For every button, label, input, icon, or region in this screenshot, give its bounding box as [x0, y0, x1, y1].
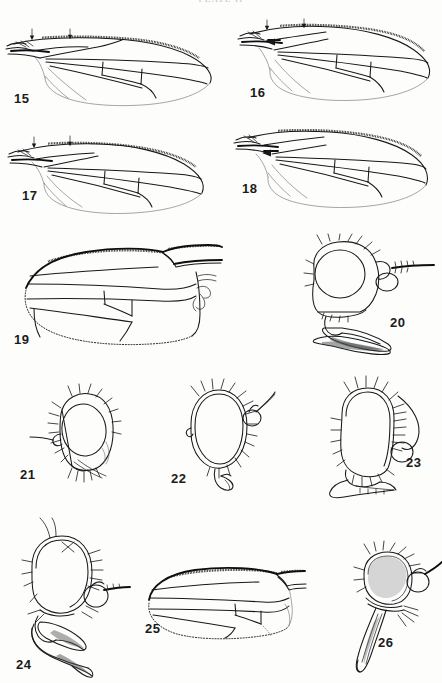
figure-22: 22 — [163, 376, 275, 500]
figure-18-label: 18 — [242, 182, 257, 195]
figure-25: 25 — [137, 560, 309, 644]
figure-18: 18 — [228, 118, 442, 214]
figure-17-label: 17 — [22, 189, 37, 202]
figure-20-label: 20 — [390, 316, 405, 329]
figure-20: 20 — [292, 234, 442, 356]
figure-23: 23 — [318, 374, 442, 500]
figure-23-label: 23 — [406, 456, 421, 469]
figure-16: 16 — [232, 12, 442, 107]
figure-plate: PLATE II — [0, 0, 442, 683]
figure-26: 26 — [340, 540, 442, 676]
figure-17: 17 — [4, 126, 218, 214]
figure-24-label: 24 — [16, 658, 31, 671]
running-head: PLATE II — [0, 0, 442, 2]
figure-21-label: 21 — [20, 468, 35, 481]
figure-16-label: 16 — [250, 86, 265, 99]
figure-21: 21 — [28, 384, 138, 490]
figure-22-label: 22 — [171, 472, 186, 485]
figure-15-label: 15 — [14, 92, 29, 105]
figure-15: 15 — [2, 18, 222, 108]
figure-26-label: 26 — [378, 636, 393, 649]
figure-25-label: 25 — [145, 622, 160, 635]
figure-19: 19 — [8, 236, 226, 354]
figure-24: 24 — [10, 518, 130, 678]
figure-19-label: 19 — [14, 333, 29, 346]
